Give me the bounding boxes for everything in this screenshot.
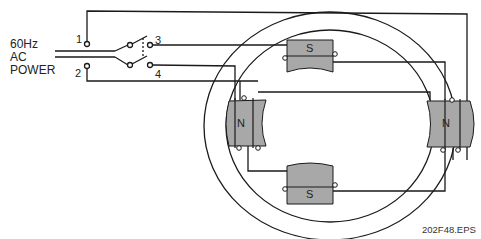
pole-bottom-label: S	[306, 188, 313, 200]
power-text-label: POWER	[10, 64, 55, 77]
pole-top-label: S	[306, 42, 313, 54]
terminal-3-label: 3	[155, 34, 161, 46]
file-name-label: 202F48.EPS	[422, 224, 476, 235]
pole-left-n	[226, 100, 266, 146]
two-phase-motor-diagram: 60Hz AC POWER 1 2 3 4 S S N N 202F48.EPS	[0, 0, 481, 239]
pole-left-label: N	[237, 117, 245, 129]
pole-right-n	[427, 101, 474, 147]
power-label: 60Hz AC POWER	[10, 38, 55, 77]
terminal-1-label: 1	[76, 33, 82, 45]
pole-right-label: N	[442, 117, 450, 129]
terminal-2-label: 2	[75, 67, 81, 79]
terminal-4-label: 4	[155, 68, 161, 80]
